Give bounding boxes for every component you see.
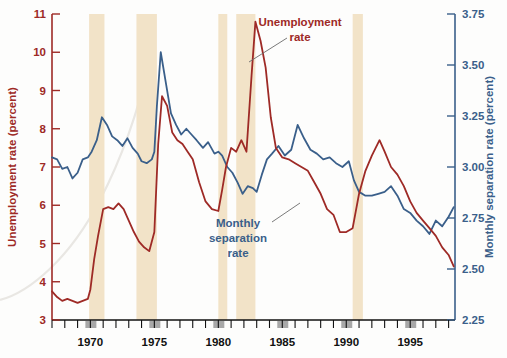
left-tick-label: 4 bbox=[40, 276, 47, 288]
x-tick-label: 1985 bbox=[269, 336, 295, 348]
annotation-separation-line3: rate bbox=[227, 247, 248, 259]
right-tick-label: 2.50 bbox=[462, 263, 484, 275]
x-tick-label: 1980 bbox=[206, 336, 232, 348]
right-tick-label: 3.75 bbox=[462, 8, 485, 20]
recession-band bbox=[353, 14, 363, 320]
left-axis-title: Unemployment rate (percent) bbox=[6, 87, 18, 247]
x-tick-label: 1975 bbox=[142, 336, 168, 348]
right-axis-title: Monthly separation rate (percent) bbox=[483, 76, 495, 258]
right-tick-label: 3.00 bbox=[462, 161, 484, 173]
left-tick-label: 8 bbox=[40, 123, 47, 135]
left-tick-label: 6 bbox=[40, 199, 46, 211]
chart-figure: 345678910112.252.502.753.003.253.503.751… bbox=[0, 0, 507, 358]
x-tick-label: 1970 bbox=[78, 336, 104, 348]
chart-svg: 345678910112.252.502.753.003.253.503.751… bbox=[0, 0, 507, 358]
left-tick-label: 5 bbox=[40, 238, 47, 250]
annotation-unemployment-line1: Unemployment bbox=[258, 16, 341, 28]
left-tick-label: 7 bbox=[40, 161, 46, 173]
left-tick-label: 10 bbox=[33, 46, 46, 58]
annotation-separation-line2: separation bbox=[209, 232, 267, 244]
x-tick-label: 1990 bbox=[333, 336, 359, 348]
right-tick-label: 2.75 bbox=[462, 212, 485, 224]
left-tick-label: 9 bbox=[40, 85, 46, 97]
right-tick-label: 2.25 bbox=[462, 314, 485, 326]
left-tick-label: 11 bbox=[34, 8, 47, 20]
annotation-unemployment-line2: rate bbox=[289, 31, 310, 43]
x-tick-label: 1995 bbox=[397, 336, 423, 348]
right-tick-label: 3.50 bbox=[462, 59, 484, 71]
annotation-separation-line1: Monthly bbox=[216, 217, 261, 229]
right-tick-label: 3.25 bbox=[462, 110, 485, 122]
left-tick-label: 3 bbox=[40, 314, 46, 326]
recession-band bbox=[136, 14, 156, 320]
